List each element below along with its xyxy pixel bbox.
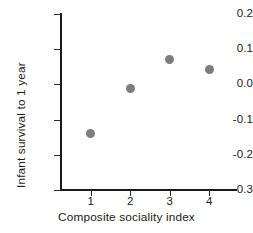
y-axis-tick-mark — [54, 84, 61, 85]
data-point — [205, 65, 214, 74]
data-point — [126, 84, 135, 93]
x-axis-tick-label: 2 — [118, 196, 142, 208]
y-axis-tick-label: 0.0 — [201, 78, 253, 90]
data-point — [165, 55, 174, 64]
y-axis-tick-mark — [54, 190, 61, 191]
y-axis-line — [60, 13, 62, 191]
y-axis-tick-label: 0.2 — [201, 8, 253, 20]
x-axis-title: Composite sociality index — [0, 210, 253, 224]
y-axis-tick-mark — [54, 155, 61, 156]
data-point — [86, 129, 95, 138]
y-axis-tick-label: 0.1 — [201, 43, 253, 55]
y-axis-tick-label: -0.2 — [201, 149, 253, 161]
y-axis-tick-mark — [54, 120, 61, 121]
x-axis-tick-label: 4 — [197, 196, 221, 208]
y-axis-tick-mark — [54, 14, 61, 15]
scatter-plot-figure: 0.20.10.0-0.1-0.2-0.3 1234 Composite soc… — [0, 0, 253, 233]
y-axis-tick-label: -0.1 — [201, 114, 253, 126]
y-axis-tick-mark — [54, 49, 61, 50]
y-axis-title: Infant survival to 1 year — [14, 62, 28, 188]
x-axis-tick-label: 3 — [158, 196, 182, 208]
x-axis-tick-label: 1 — [79, 196, 103, 208]
